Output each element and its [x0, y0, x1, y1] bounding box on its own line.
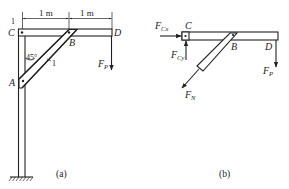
- svg-text:FCx: FCx: [154, 20, 168, 32]
- force-fp-label: FP: [262, 65, 273, 77]
- svg-text:FP: FP: [262, 65, 273, 77]
- corner-label: 1: [11, 17, 15, 26]
- svg-text:FCy: FCy: [170, 49, 184, 61]
- pin-c-icon: [21, 31, 23, 33]
- pin-a-icon: [22, 80, 24, 82]
- pin-b-icon: [68, 31, 70, 33]
- svg-text:FP: FP: [97, 58, 108, 70]
- point-label-c: C: [8, 27, 15, 38]
- point-label-d-b: D: [264, 41, 273, 52]
- dimension-label-cb: 1 m: [39, 8, 53, 18]
- caption-b: (b): [219, 169, 230, 180]
- point-label-a: A: [8, 77, 16, 88]
- fixed-support-icon: [9, 177, 33, 181]
- svg-text:FN: FN: [184, 89, 196, 101]
- dimension-lines: [23, 12, 113, 29]
- point-label-b-b: B: [231, 41, 237, 52]
- point-label-c-b: C: [185, 20, 192, 31]
- force-fcy-label: FCy: [170, 49, 184, 61]
- angle-label: 45°: [26, 53, 37, 62]
- point-label-b: B: [69, 37, 75, 48]
- point-label-d: D: [113, 27, 122, 38]
- pin-c-dot-icon: [184, 35, 186, 37]
- figure-a: 1 m 1 m 45° 1 1 C B D A FP (a): [8, 8, 122, 181]
- figure-b: FN FCx FCy FP C B D (b): [154, 20, 278, 180]
- load-fp-label: FP: [97, 58, 108, 70]
- caption-a: (a): [56, 169, 67, 180]
- member-label: 1: [52, 59, 56, 68]
- vertical-post: [19, 29, 26, 177]
- force-fcx-label: FCx: [154, 20, 168, 32]
- force-fn-label: FN: [184, 89, 196, 101]
- dimension-label-bd: 1 m: [80, 8, 94, 18]
- statics-diagram: 1 m 1 m 45° 1 1 C B D A FP (a): [0, 0, 289, 189]
- force-fn-arrow-icon: [182, 69, 199, 88]
